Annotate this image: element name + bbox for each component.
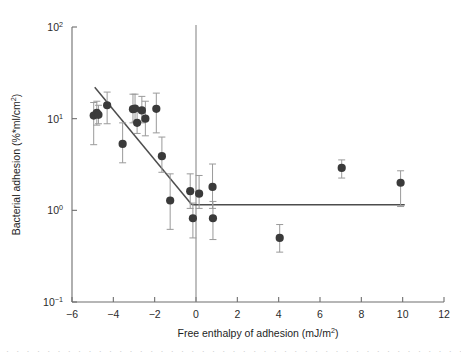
data-point [138,106,146,114]
error-bar [397,171,404,207]
y-tick-label-2: 101 [47,112,63,125]
data-point [119,140,127,148]
x-tick-label-8: 10 [397,308,409,320]
x-axis-title: Free enthalpy of adhesion (mJ/m2) [178,326,339,339]
data-point [186,187,194,195]
data-point [166,196,174,204]
caption-strip: · · · · · · · · · · · · · · · · · · · · … [0,344,461,358]
x-tick-label-1: −4 [107,308,119,320]
data-markers [90,101,405,242]
error-bars [90,92,404,252]
data-point [158,152,166,160]
data-point [338,164,346,172]
data-point [103,101,111,109]
y-axis-title: Bacterial adhesion (%*ml/cm2) [9,94,22,236]
data-point [141,115,149,123]
fit-lines [95,87,405,204]
data-point [133,119,141,127]
data-point [397,179,405,187]
data-point [94,111,102,119]
data-point [189,214,197,222]
axes [72,27,444,302]
x-tick-label-3: 0 [193,308,199,320]
x-tick-label-6: 6 [317,308,323,320]
y-tick-label-0: 10−1 [43,295,63,308]
x-tick-label-7: 8 [358,308,364,320]
y-tick-label-3: 102 [47,20,63,33]
data-point [209,214,217,222]
tick-labels: −6−4−202468101210−1100101102 [43,20,450,320]
x-tick-label-2: −2 [149,308,161,320]
x-tick-label-0: −6 [66,308,78,320]
x-tick-label-4: 2 [234,308,240,320]
x-tick-label-9: 12 [438,308,450,320]
x-tick-label-5: 4 [276,308,282,320]
data-point [276,234,284,242]
scatter-plot: −6−4−202468101210−1100101102 Free enthal… [0,0,461,358]
data-point [195,190,203,198]
y-tick-label-1: 100 [47,203,63,216]
figure-container: −6−4−202468101210−1100101102 Free enthal… [0,0,461,358]
error-bar [153,93,160,133]
data-point [208,183,216,191]
data-point [152,105,160,113]
caption-partial-text: · · · · · · · · · · · · · · · · · · · · … [0,344,461,358]
